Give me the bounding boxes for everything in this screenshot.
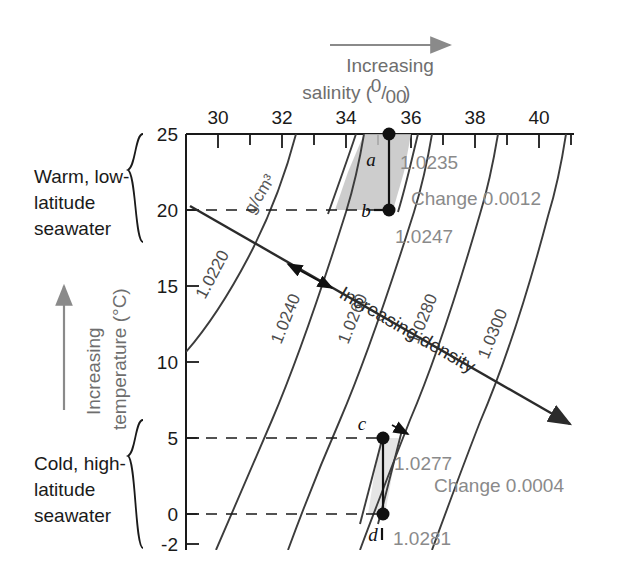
point-label-c: c — [358, 413, 367, 434]
change-annotation-cold: Change 0.0004 — [434, 475, 564, 496]
top-axis-label-5: 40 — [528, 107, 549, 128]
warm-seawater-line3: seawater — [34, 218, 112, 239]
warm-seawater-bracket-group: Warm, low- latitude seawater — [34, 134, 143, 242]
permille-numerator: 0 — [371, 75, 382, 96]
point-label-a: a — [366, 149, 376, 170]
top-axis-label-1: 32 — [271, 107, 292, 128]
density-value-d: 1.0281 — [393, 528, 451, 549]
cold-seawater-line2: latitude — [34, 479, 95, 500]
warm-seawater-line1: Warm, low- — [34, 166, 129, 187]
top-axis-label-2: 34 — [335, 107, 357, 128]
top-axis-label-4: 38 — [464, 107, 485, 128]
data-point-a[interactable] — [383, 128, 396, 141]
left-temperature-axis: 25 20 15 10 5 0 -2 — [157, 124, 199, 555]
density-value-a: 1.0235 — [400, 152, 458, 173]
left-axis-label-4: 5 — [167, 428, 178, 449]
point-label-b: b — [361, 200, 371, 221]
cold-seawater-line3: seawater — [34, 505, 112, 526]
data-point-c[interactable] — [377, 432, 390, 445]
point-label-d: d — [368, 524, 378, 545]
diagram-canvas: Increasing salinity ( 0 / 00 ) 30 32 34 … — [0, 0, 618, 587]
increasing-salinity-line2-prefix: salinity ( — [302, 82, 372, 103]
density-value-b: 1.0247 — [395, 226, 453, 247]
data-point-d[interactable] — [377, 508, 390, 521]
isopycnal-label-1: 1.0240 — [267, 291, 304, 346]
left-axis-label-6: -2 — [161, 534, 178, 555]
t-s-density-diagram: Increasing salinity ( 0 / 00 ) 30 32 34 … — [0, 0, 618, 587]
temperature-axis-title-group: Increasing temperature (°C) — [64, 286, 130, 430]
increasing-temperature-part2: temperature (°C) — [109, 288, 130, 430]
left-axis-label-0: 25 — [157, 124, 178, 145]
change-annotation-warm: Change 0.0012 — [411, 188, 541, 209]
density-value-c: 1.0277 — [394, 453, 452, 474]
salinity-axis-title-group: Increasing salinity ( 0 / 00 ) — [302, 45, 450, 107]
increasing-temperature-part1: Increasing — [83, 327, 104, 415]
cold-seawater-bracket-group: Cold, high- latitude seawater — [34, 420, 143, 548]
cold-seawater-line1: Cold, high- — [34, 453, 126, 474]
left-axis-label-1: 20 — [157, 200, 178, 221]
cold-seawater-brace — [128, 420, 143, 548]
warm-seawater-line2: latitude — [34, 192, 95, 213]
top-axis-label-3: 36 — [400, 107, 421, 128]
left-axis-label-5: 0 — [167, 504, 178, 525]
left-axis-label-3: 10 — [157, 352, 178, 373]
top-axis-label-0: 30 — [207, 107, 228, 128]
left-axis-label-2: 15 — [157, 276, 178, 297]
increasing-salinity-line2-suffix: ) — [404, 82, 410, 103]
warm-seawater-brace — [128, 134, 143, 242]
increasing-salinity-line1: Increasing — [346, 55, 434, 76]
increasing-density-group: Increasing density — [190, 206, 570, 424]
